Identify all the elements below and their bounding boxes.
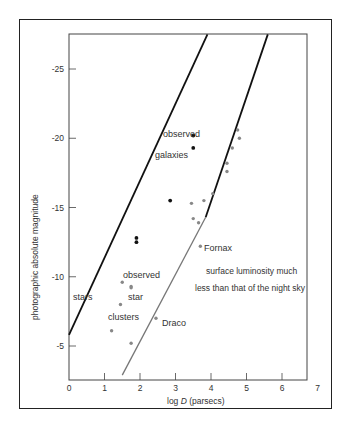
x-tick-label: 5 — [244, 383, 249, 393]
data-point — [211, 192, 214, 195]
label-observed-clusters: observed — [123, 270, 160, 280]
data-point — [135, 240, 139, 244]
data-point — [231, 146, 234, 149]
x-tick-label: 2 — [138, 383, 143, 393]
y-axis-ticks: -25-20-15-10-5 — [52, 64, 76, 351]
y-axis-label: photographic absolute magnitude — [30, 194, 40, 320]
data-point — [168, 199, 172, 203]
upper-boundary-black — [69, 34, 207, 335]
y-tick-label: -25 — [52, 64, 65, 74]
data-point — [121, 281, 124, 284]
data-point — [119, 303, 122, 306]
data-point — [191, 146, 195, 150]
x-tick-label: 1 — [102, 383, 107, 393]
data-point — [225, 170, 228, 173]
x-axis-label: log D (parsecs) — [167, 396, 225, 406]
label-clusters: clusters — [108, 312, 140, 322]
data-point — [236, 128, 239, 131]
y-tick-label: -10 — [52, 272, 65, 282]
lower-boundary-black — [206, 34, 268, 217]
x-axis-ticks: 01234567 — [67, 373, 321, 393]
y-tick-label: -5 — [56, 341, 64, 351]
data-point — [192, 217, 195, 220]
label-night-sky: less than that of the night sky — [195, 283, 306, 293]
label-galaxies: galaxies — [155, 150, 189, 160]
data-point — [154, 317, 157, 320]
data-point — [238, 137, 241, 140]
label-surface-luminosity: surface luminosity much — [206, 266, 297, 276]
data-point — [225, 161, 228, 164]
x-tick-label: 0 — [67, 383, 72, 393]
label-stars: stars — [73, 292, 93, 302]
data-point — [202, 199, 205, 202]
data-point — [199, 245, 202, 248]
y-tick-label: -20 — [52, 133, 65, 143]
label-observed-galaxies: observed — [163, 129, 200, 139]
x-tick-label: 3 — [173, 383, 178, 393]
data-point — [110, 329, 113, 332]
x-tick-label: 4 — [209, 383, 214, 393]
data-point — [135, 236, 139, 240]
y-tick-label: -15 — [52, 203, 65, 213]
label-fornax: Fornax — [204, 243, 233, 253]
x-tick-label: 7 — [315, 383, 320, 393]
chart: 01234567 -25-20-15-10-5 observed galaxie… — [0, 0, 353, 423]
data-point — [129, 342, 132, 345]
label-star: star — [128, 292, 143, 302]
label-draco: Draco — [162, 318, 186, 328]
plot-area — [69, 34, 307, 380]
data-point — [197, 221, 200, 224]
data-point — [190, 202, 193, 205]
data-point — [129, 286, 132, 289]
x-tick-label: 6 — [280, 383, 285, 393]
